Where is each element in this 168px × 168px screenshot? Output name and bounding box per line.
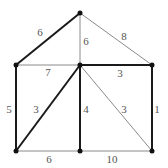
node-left-bot — [14, 149, 19, 154]
edge-center-mid-right-bot — [80, 65, 152, 151]
node-right-bot — [150, 149, 155, 154]
edge-weight-label: 3 — [117, 67, 123, 79]
labels-layer: 6687353431610 — [6, 26, 160, 165]
edge-weight-label: 4 — [83, 103, 89, 115]
edge-weight-label: 8 — [121, 30, 127, 42]
edge-weight-label: 3 — [121, 103, 127, 115]
edge-weight-label: 3 — [33, 103, 39, 115]
edge-top-left-mid — [16, 13, 80, 65]
nodes-layer — [14, 11, 155, 154]
node-right-mid — [150, 63, 155, 68]
edge-weight-label: 6 — [37, 26, 43, 38]
node-center-mid — [78, 63, 83, 68]
edge-weight-label: 6 — [83, 35, 89, 47]
edge-weight-label: 10 — [107, 153, 119, 165]
node-center-bot — [78, 149, 83, 154]
edge-weight-label: 5 — [6, 103, 12, 115]
weighted-graph-diagram: 6687353431610 — [0, 0, 168, 168]
node-top — [78, 11, 83, 16]
node-left-mid — [14, 63, 19, 68]
edge-top-right-mid — [80, 13, 152, 65]
edge-weight-label: 6 — [46, 153, 52, 165]
edge-weight-label: 7 — [45, 66, 51, 78]
edge-weight-label: 1 — [154, 103, 160, 115]
